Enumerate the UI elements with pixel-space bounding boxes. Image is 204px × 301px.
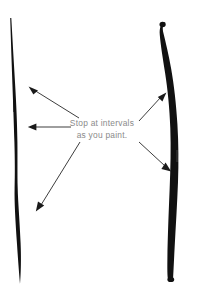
left-brushstroke-texture-lower [15, 176, 17, 196]
brushstroke-instruction-figure: Stop at intervals as you paint. [0, 0, 204, 301]
figure-canvas: Stop at intervals as you paint. [0, 0, 204, 301]
caption-line-1: Stop at intervals [70, 118, 134, 128]
right-brushstroke-lift-break [176, 150, 179, 162]
caption-line-2: as you paint. [77, 130, 128, 140]
right-brushstroke-bottom-cap [167, 277, 174, 282]
right-brushstroke-top-cap [160, 22, 166, 28]
left-brushstroke-texture-upper [13, 96, 15, 112]
